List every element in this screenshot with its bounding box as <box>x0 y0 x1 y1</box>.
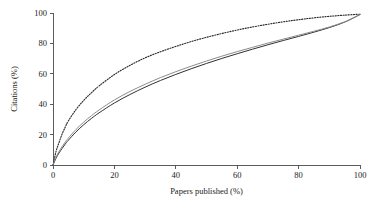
y-axis-tick-labels: 020406080100 <box>34 8 47 170</box>
x-tick-label-100: 100 <box>354 170 367 180</box>
series-solid-gray-curve <box>53 15 360 165</box>
x-axis-title: Papers published (%) <box>170 186 243 196</box>
x-axis-group: 020406080100 <box>51 165 367 180</box>
x-tick-label-20: 20 <box>110 170 119 180</box>
y-axis-ticks <box>50 13 54 165</box>
series-group <box>53 14 360 165</box>
x-tick-label-80: 80 <box>294 170 303 180</box>
x-tick-label-0: 0 <box>51 170 55 180</box>
series-solid-black-curve <box>53 15 360 165</box>
y-tick-label-20: 20 <box>39 130 48 140</box>
y-tick-label-80: 80 <box>39 38 48 48</box>
chart-canvas: 020406080100 020406080100 Papers publish… <box>0 0 374 208</box>
y-axis-title: Citations (%) <box>9 66 19 112</box>
citation-distribution-chart: 020406080100 020406080100 Papers publish… <box>0 0 374 208</box>
x-axis-tick-labels: 020406080100 <box>51 170 367 180</box>
y-tick-label-40: 40 <box>39 99 48 109</box>
y-tick-label-60: 60 <box>39 69 48 79</box>
y-tick-label-100: 100 <box>34 8 47 18</box>
y-tick-label-0: 0 <box>43 160 47 170</box>
x-tick-label-60: 60 <box>233 170 242 180</box>
x-tick-label-40: 40 <box>172 170 181 180</box>
y-axis-group: 020406080100 <box>34 8 53 170</box>
series-dotted-curve <box>53 14 360 165</box>
x-axis-ticks <box>53 165 360 169</box>
